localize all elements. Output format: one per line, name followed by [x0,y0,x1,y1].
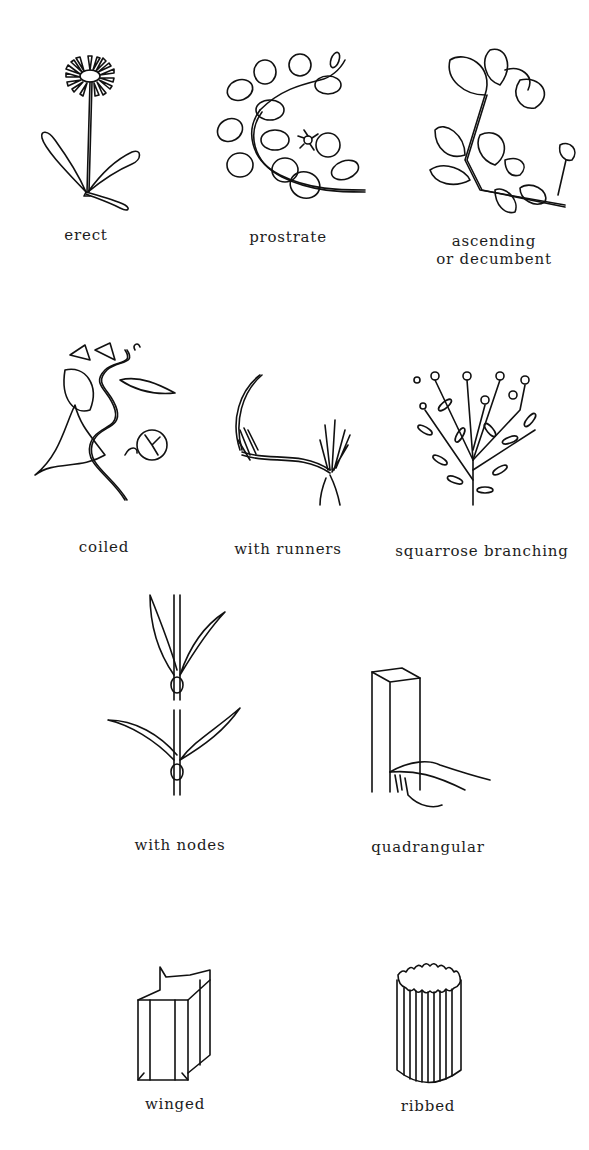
label-coiled: coiled [79,538,129,556]
figure-erect [0,0,180,250]
figure-runners [220,370,360,510]
figure-winged [120,955,220,1085]
label-ascending: ascending or decumbent [436,232,552,268]
figure-ribbed [380,955,480,1085]
figure-nodes [90,590,250,800]
ribbed-stem-drawing [380,955,480,1085]
figure-squarrose [405,350,555,510]
label-runners: with runners [234,540,342,558]
winged-stem-drawing [120,955,220,1085]
label-quadrangular: quadrangular [371,838,484,856]
erect-plant-drawing [0,0,180,250]
label-ascending-line1: ascending [436,232,552,250]
label-nodes: with nodes [135,836,226,854]
label-ascending-line2: or decumbent [436,250,552,268]
figure-quadrangular [360,660,510,810]
figure-prostrate [200,40,380,220]
label-prostrate: prostrate [249,228,327,246]
coiled-plant-drawing [30,335,180,510]
runners-plant-drawing [220,370,360,510]
figure-coiled [30,335,180,510]
label-squarrose: squarrose branching [395,542,568,560]
squarrose-plant-drawing [405,350,555,510]
quadrangular-stem-drawing [360,660,510,810]
ascending-plant-drawing [420,40,589,220]
label-erect: erect [64,226,107,244]
figure-ascending [420,40,589,220]
prostrate-plant-drawing [200,40,380,220]
nodes-stem-drawing [90,590,250,800]
label-ribbed: ribbed [401,1097,455,1115]
label-winged: winged [145,1095,205,1113]
